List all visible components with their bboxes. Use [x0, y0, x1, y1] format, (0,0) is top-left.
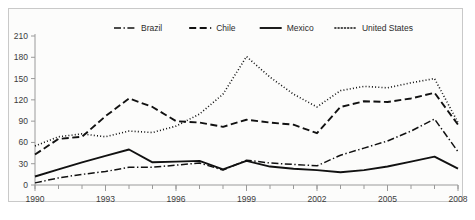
legend-label-chile: Chile — [216, 23, 236, 33]
chart-canvas: 0306090120150180210199019931996199920022… — [0, 0, 475, 220]
x-tick-label: 1990 — [26, 194, 45, 204]
x-tick-label: 2002 — [308, 194, 327, 204]
y-tick-label: 0 — [23, 180, 28, 190]
x-tick-label: 2005 — [378, 194, 397, 204]
legend-label-brazil: Brazil — [141, 23, 162, 33]
series-line-chile — [35, 93, 458, 155]
y-tick-label: 30 — [19, 159, 29, 169]
legend-label-united-states: United States — [362, 23, 413, 33]
y-tick-label: 120 — [14, 95, 28, 105]
x-tick-label: 1993 — [96, 194, 115, 204]
legend-label-mexico: Mexico — [287, 23, 314, 33]
x-tick-label: 2008 — [449, 194, 468, 204]
y-tick-label: 180 — [14, 52, 28, 62]
series-line-brazil — [35, 119, 458, 183]
y-tick-label: 90 — [19, 116, 29, 126]
x-tick-label: 1999 — [237, 194, 256, 204]
line-chart: 0306090120150180210199019931996199920022… — [0, 0, 475, 220]
y-tick-label: 150 — [14, 74, 28, 84]
y-tick-label: 210 — [14, 31, 28, 41]
y-tick-label: 60 — [19, 137, 29, 147]
x-tick-label: 1996 — [167, 194, 186, 204]
